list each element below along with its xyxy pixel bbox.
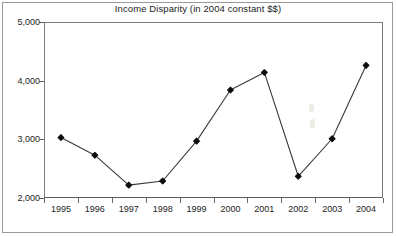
x-axis-tick-mark	[44, 198, 45, 203]
x-axis-tick-mark	[146, 198, 147, 203]
x-axis-tick-mark	[349, 198, 350, 203]
x-axis-tick-label: 2000	[220, 204, 240, 214]
x-axis-tick-label: 1998	[153, 204, 173, 214]
line-series-svg	[44, 22, 383, 198]
chart-title: Income Disparity (in 2004 constant $$)	[0, 3, 396, 14]
x-axis-tick-mark	[315, 198, 316, 203]
x-axis-tick-label: 2002	[288, 204, 308, 214]
y-axis-tick-mark	[39, 22, 44, 23]
y-axis-tick-mark	[39, 81, 44, 82]
chart-figure: Income Disparity (in 2004 constant $$) 2…	[0, 0, 396, 236]
x-axis-tick-label: 1996	[85, 204, 105, 214]
x-axis-tick-label: 1999	[187, 204, 207, 214]
x-axis-tick-mark	[112, 198, 113, 203]
x-axis-tick-mark	[180, 198, 181, 203]
x-axis-tick-label: 1997	[119, 204, 139, 214]
x-axis-tick-mark	[78, 198, 79, 203]
x-axis-tick-label: 2001	[254, 204, 274, 214]
x-axis-tick-label: 2003	[322, 204, 342, 214]
x-axis-tick-mark	[383, 198, 384, 203]
y-axis-tick-label: 2,000	[2, 193, 40, 203]
x-axis-tick-label: 2004	[356, 204, 376, 214]
y-axis-tick-label: 5,000	[2, 17, 40, 27]
x-axis-tick-mark	[281, 198, 282, 203]
data-point-marker	[58, 135, 64, 141]
x-axis-tick-label: 1995	[51, 204, 71, 214]
y-axis-tick-label: 4,000	[2, 76, 40, 86]
data-point-marker	[363, 63, 369, 69]
series-markers	[58, 63, 369, 188]
data-point-marker	[261, 70, 267, 76]
y-axis-tick-mark	[39, 139, 44, 140]
series-line	[61, 65, 366, 185]
y-axis-tick-labels: 2,0003,0004,0005,000	[0, 0, 40, 236]
x-axis-tick-mark	[247, 198, 248, 203]
data-point-marker	[228, 87, 234, 93]
x-axis-tick-mark	[214, 198, 215, 203]
y-axis-tick-label: 3,000	[2, 134, 40, 144]
